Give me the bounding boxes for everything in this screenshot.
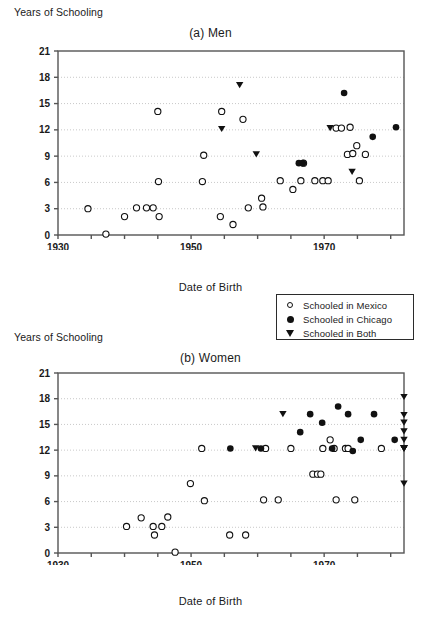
data-point [378, 445, 384, 451]
svg-text:18: 18 [39, 393, 51, 404]
x-axis-label-men: Date of Birth [0, 281, 421, 293]
data-point [400, 445, 407, 451]
data-point [227, 532, 233, 538]
data-point [240, 116, 246, 122]
data-point [400, 428, 407, 434]
data-point [356, 178, 362, 184]
data-point [333, 497, 339, 503]
data-point [400, 394, 407, 400]
svg-text:18: 18 [39, 72, 51, 83]
data-point [393, 124, 400, 131]
data-point [290, 186, 296, 192]
data-point [245, 205, 251, 211]
legend-label-chicago: Schooled in Chicago [303, 314, 392, 325]
svg-text:12: 12 [39, 445, 51, 456]
legend-item-chicago: Schooled in Chicago [277, 312, 415, 326]
data-point [150, 205, 156, 211]
data-point [371, 411, 378, 418]
data-point [143, 205, 149, 211]
data-point [243, 532, 249, 538]
data-point [172, 549, 178, 555]
data-point [151, 532, 157, 538]
data-point [335, 403, 342, 410]
svg-text:3: 3 [44, 522, 50, 533]
data-point [217, 214, 223, 220]
data-point [319, 419, 326, 426]
data-point [318, 471, 324, 477]
svg-text:1950: 1950 [180, 242, 203, 250]
scatter-svg-women: 036912151821193019501970 [0, 325, 421, 565]
data-point [307, 411, 314, 418]
data-point [103, 231, 109, 237]
data-point [219, 108, 225, 114]
data-point [230, 221, 236, 227]
open-circle-icon [277, 302, 303, 308]
data-point [275, 497, 281, 503]
svg-text:21: 21 [39, 368, 51, 379]
data-point [352, 497, 358, 503]
data-point [400, 412, 407, 418]
data-point [341, 90, 348, 97]
data-point [227, 445, 234, 452]
panel-men: Years of Schooling (a) Men 0369121518211… [0, 0, 421, 311]
data-point [155, 108, 161, 114]
legend-item-mexico: Schooled in Mexico [277, 298, 415, 312]
data-point [391, 437, 398, 444]
data-point [279, 411, 286, 417]
data-point [133, 205, 139, 211]
data-point [201, 498, 207, 504]
data-point [261, 497, 267, 503]
plot-men: 036912151821193019501970 [0, 0, 421, 250]
data-point [288, 445, 294, 451]
data-point [121, 214, 127, 220]
data-point [362, 151, 368, 157]
data-point [400, 480, 407, 486]
data-point [155, 178, 161, 184]
svg-text:9: 9 [44, 470, 50, 481]
data-point [218, 126, 225, 132]
x-axis-label-women: Date of Birth [0, 595, 421, 607]
data-point [357, 437, 364, 444]
data-point [123, 523, 129, 529]
svg-text:0: 0 [44, 230, 50, 241]
data-point [297, 429, 304, 436]
data-point [349, 448, 356, 455]
data-point [350, 150, 356, 156]
data-point [345, 411, 352, 418]
data-point [85, 206, 91, 212]
data-point [325, 178, 331, 184]
svg-text:9: 9 [44, 151, 50, 162]
data-point [312, 178, 318, 184]
data-point [156, 214, 162, 220]
svg-text:1930: 1930 [47, 560, 70, 565]
series-filled-circle [227, 403, 398, 454]
svg-text:1930: 1930 [47, 242, 70, 250]
data-point [320, 445, 326, 451]
panel-women: Years of Schooling (b) Women 03691215182… [0, 325, 421, 622]
data-point [165, 514, 171, 520]
data-point [199, 178, 205, 184]
series-open-circle [85, 108, 369, 237]
svg-text:1970: 1970 [313, 242, 336, 250]
data-point [300, 160, 307, 167]
data-point [329, 445, 336, 452]
svg-text:6: 6 [44, 496, 50, 507]
data-point [338, 125, 344, 131]
data-point [187, 480, 193, 486]
svg-text:0: 0 [44, 548, 50, 559]
data-point [277, 178, 283, 184]
data-point [260, 204, 266, 210]
data-point [298, 178, 304, 184]
data-point [138, 515, 144, 521]
svg-text:15: 15 [39, 419, 51, 430]
data-point [400, 437, 407, 443]
data-point [347, 124, 353, 130]
data-point [327, 437, 333, 443]
data-point [400, 420, 407, 426]
series-open-circle [123, 437, 384, 555]
svg-text:21: 21 [39, 46, 51, 57]
data-point [159, 523, 165, 529]
svg-text:6: 6 [44, 177, 50, 188]
svg-text:15: 15 [39, 98, 51, 109]
svg-text:1950: 1950 [180, 560, 203, 565]
